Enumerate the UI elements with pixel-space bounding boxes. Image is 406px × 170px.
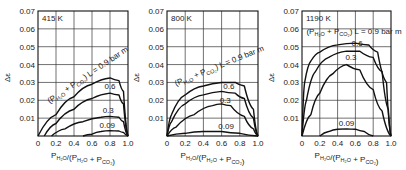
curve-label: 0.09	[218, 122, 234, 131]
curve-label: 0.09	[339, 119, 355, 128]
curve-0.09	[167, 132, 258, 136]
x-axis-label: PH₂O/(PH₂O + PCO₂)	[181, 151, 245, 166]
panel-title: 800 K	[171, 14, 193, 23]
y-tick-label: 0.01	[19, 114, 35, 123]
x-tick-label: 0.8	[234, 139, 246, 148]
y-tick-label: 0.04	[148, 61, 164, 70]
y-axis-label: Δε	[132, 73, 141, 82]
y-tick-label: 0.03	[148, 78, 164, 87]
y-axis-label: Δε	[3, 73, 12, 82]
curve-label: 0.3	[345, 53, 357, 62]
curve-label: 0.6	[352, 39, 364, 48]
chart-panel-3: 0.010.020.030.040.050.060.0700.20.40.60.…	[267, 7, 402, 166]
y-tick-label: 0.07	[283, 7, 299, 16]
curve-label: 0.6	[104, 82, 116, 91]
y-tick-label: 0.06	[283, 25, 299, 34]
curve-label: 0.3	[220, 96, 232, 105]
y-axis-label: Δε	[267, 73, 276, 82]
y-tick-label: 0.05	[148, 43, 164, 52]
y-tick-label: 0.02	[148, 96, 164, 105]
x-tick-label: 0.2	[314, 139, 326, 148]
x-tick-label: 0	[36, 139, 41, 148]
x-axis-label: PH₂O/(PH₂O + PCO₂)	[51, 151, 115, 166]
y-tick-label: 0.01	[283, 114, 299, 123]
x-tick-label: 1.0	[385, 139, 397, 148]
curve-0.09	[83, 131, 128, 136]
x-tick-label: 1.0	[252, 139, 264, 148]
x-tick-label: 0.6	[350, 139, 362, 148]
chart-panel-2: 0.010.020.030.040.050.060.0700.20.40.60.…	[132, 7, 266, 166]
x-tick-label: 0	[300, 139, 305, 148]
y-tick-label: 0.05	[283, 43, 299, 52]
x-tick-label: 0.4	[198, 139, 210, 148]
curve-0.9	[167, 82, 258, 136]
chart-panel-1: 0.010.020.030.040.050.060.0700.20.40.60.…	[3, 7, 134, 166]
y-tick-label: 0.04	[19, 61, 35, 70]
y-tick-label: 0.03	[283, 78, 299, 87]
x-tick-label: 0.8	[104, 139, 116, 148]
x-tick-label: 0.4	[332, 139, 344, 148]
curve-0.3	[52, 116, 129, 136]
curve-annotation: (PH₂O + PCO₂) L = 0.9 bar m	[46, 45, 131, 107]
curve-label: 0.3	[103, 106, 115, 115]
curve-label: 0.6	[223, 82, 235, 91]
y-tick-label: 0.07	[148, 7, 164, 16]
y-tick-label: 0.02	[19, 96, 35, 105]
x-tick-label: 0.2	[180, 139, 192, 148]
panel-title: 415 K	[42, 14, 64, 23]
y-tick-label: 0.03	[19, 78, 35, 87]
y-tick-label: 0.04	[283, 61, 299, 70]
y-tick-label: 0.02	[283, 96, 299, 105]
x-axis-label: PH₂O/(PH₂O + PCO₂)	[315, 151, 379, 166]
curve-label: 0.09	[100, 121, 116, 130]
y-tick-label: 0.06	[148, 25, 164, 34]
y-tick-label: 0.01	[148, 114, 164, 123]
panel-title: 1190 K	[306, 14, 331, 23]
x-tick-label: 0.6	[86, 139, 98, 148]
chart-figure: 0.010.020.030.040.050.060.0700.20.40.60.…	[0, 0, 406, 170]
x-tick-label: 0.2	[50, 139, 62, 148]
x-tick-label: 0.4	[68, 139, 80, 148]
x-tick-label: 0.8	[368, 139, 380, 148]
y-tick-label: 0.07	[19, 7, 35, 16]
y-tick-label: 0.05	[19, 43, 35, 52]
x-tick-label: 0.6	[216, 139, 228, 148]
y-tick-label: 0.06	[19, 25, 35, 34]
x-tick-label: 0	[165, 139, 170, 148]
curve-0.09	[320, 129, 373, 136]
x-tick-label: 1.0	[122, 139, 134, 148]
